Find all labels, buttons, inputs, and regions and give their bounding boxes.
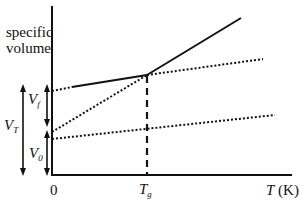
vt-double-arrow [20, 84, 26, 176]
occupied-volume-line [52, 115, 275, 139]
glass-line [72, 75, 147, 87]
vf-label: Vf [28, 92, 40, 109]
origin-label: 0 [50, 183, 58, 198]
vf-double-arrow [44, 84, 50, 127]
v0-label: V0 [29, 146, 43, 163]
liquid-line [147, 18, 241, 75]
y-axis-label-line1: specific [6, 25, 50, 40]
x-axis-label: T (K) [266, 183, 299, 198]
glass-extrapolation-left [52, 87, 72, 91]
y-axis-label: specific volume [6, 25, 50, 56]
tg-label: Tg [139, 182, 152, 199]
v0-double-arrow [44, 130, 50, 176]
vt-label: VT [4, 118, 18, 135]
y-axis-label-line2: volume [6, 41, 50, 56]
glass-extrapolation-right [147, 59, 263, 75]
